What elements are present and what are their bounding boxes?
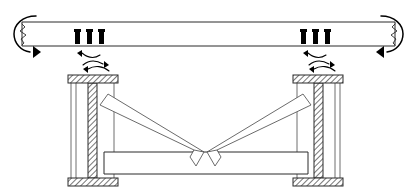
bottom-beam xyxy=(104,152,308,174)
column-left-cap-plate xyxy=(68,75,118,83)
bolt-group-right xyxy=(300,29,331,44)
bolt-group-left xyxy=(74,29,105,44)
column-right-cap-plate xyxy=(293,75,343,83)
structural-diagram xyxy=(0,0,417,196)
column-right-base-plate xyxy=(293,178,343,186)
structural-diagram-canvas xyxy=(0,0,417,196)
column-left-web xyxy=(88,83,97,178)
column-right-web xyxy=(314,83,323,178)
column-left-base-plate xyxy=(68,178,118,186)
